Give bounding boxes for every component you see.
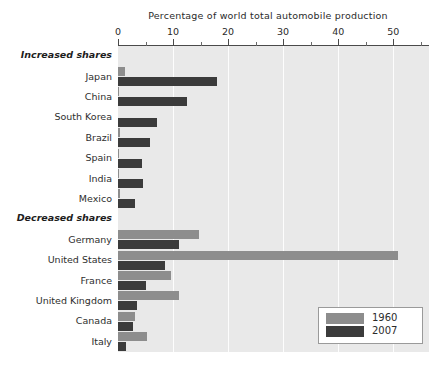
bar-1960-india bbox=[118, 169, 119, 178]
group-header-decreased-shares: Decreased shares bbox=[0, 209, 438, 229]
group-header-label: Increased shares bbox=[0, 49, 112, 60]
bar-1960-germany bbox=[118, 230, 199, 239]
bar-2007-japan bbox=[118, 77, 217, 86]
legend-swatch-1960 bbox=[326, 313, 364, 324]
bar-1960-spain bbox=[118, 149, 119, 158]
bar-2007-india bbox=[118, 179, 143, 188]
bar-2007-united-states bbox=[118, 261, 165, 270]
category-label: France bbox=[0, 275, 112, 286]
category-label: Italy bbox=[0, 336, 112, 347]
bar-2007-china bbox=[118, 97, 187, 106]
bar-1960-brazil bbox=[118, 128, 120, 137]
category-label: Spain bbox=[0, 152, 112, 163]
bar-1960-united-states bbox=[118, 251, 398, 260]
bar-1960-japan bbox=[118, 67, 125, 76]
category-label: Mexico bbox=[0, 193, 112, 204]
category-label: Brazil bbox=[0, 132, 112, 143]
category-label: China bbox=[0, 91, 112, 102]
chart-row-brazil: Brazil bbox=[0, 128, 438, 148]
chart-row-germany: Germany bbox=[0, 230, 438, 250]
chart-row-france: France bbox=[0, 270, 438, 290]
bar-1960-china bbox=[118, 87, 119, 96]
chart-row-south-korea: South Korea bbox=[0, 107, 438, 127]
tick-major-40 bbox=[338, 39, 339, 46]
bar-2007-germany bbox=[118, 240, 179, 249]
bar-1960-united-kingdom bbox=[118, 291, 179, 300]
legend-label-1960: 1960 bbox=[372, 312, 397, 323]
tick-major-20 bbox=[228, 39, 229, 46]
category-label: Japan bbox=[0, 71, 112, 82]
chart-row-india: India bbox=[0, 168, 438, 188]
category-label: South Korea bbox=[0, 111, 112, 122]
group-header-increased-shares: Increased shares bbox=[0, 46, 438, 66]
legend-label-2007: 2007 bbox=[372, 325, 397, 336]
category-label: India bbox=[0, 173, 112, 184]
chart-legend: 19602007 bbox=[318, 307, 423, 344]
chart-row-china: China bbox=[0, 87, 438, 107]
tick-major-50 bbox=[393, 39, 394, 46]
bar-2007-united-kingdom bbox=[118, 301, 137, 310]
bar-2007-france bbox=[118, 281, 146, 290]
chart-row-spain: Spain bbox=[0, 148, 438, 168]
chart-row-japan: Japan bbox=[0, 66, 438, 86]
tick-label-50: 50 bbox=[387, 26, 399, 37]
tick-major-0 bbox=[118, 39, 119, 46]
bar-1960-italy bbox=[118, 332, 147, 341]
bar-2007-brazil bbox=[118, 138, 150, 147]
category-label: United Kingdom bbox=[0, 295, 112, 306]
bar-1960-mexico bbox=[118, 189, 120, 198]
category-label: United States bbox=[0, 254, 112, 265]
bar-2007-mexico bbox=[118, 199, 135, 208]
chart-row-mexico: Mexico bbox=[0, 189, 438, 209]
legend-swatch-2007 bbox=[326, 326, 364, 337]
bar-1960-france bbox=[118, 271, 171, 280]
tick-major-30 bbox=[283, 39, 284, 46]
chart-figure: Percentage of world total automobile pro… bbox=[0, 0, 438, 366]
bar-2007-spain bbox=[118, 159, 142, 168]
chart-row-united-states: United States bbox=[0, 250, 438, 270]
tick-label-20: 20 bbox=[222, 26, 234, 37]
bar-2007-italy bbox=[118, 342, 126, 351]
tick-major-10 bbox=[173, 39, 174, 46]
tick-label-10: 10 bbox=[167, 26, 179, 37]
category-label: Canada bbox=[0, 315, 112, 326]
bar-2007-south-korea bbox=[118, 118, 157, 127]
group-header-label: Decreased shares bbox=[0, 212, 112, 223]
bar-2007-canada bbox=[118, 322, 133, 331]
tick-label-40: 40 bbox=[332, 26, 344, 37]
bar-1960-canada bbox=[118, 312, 135, 321]
tick-label-0: 0 bbox=[115, 26, 121, 37]
category-label: Germany bbox=[0, 234, 112, 245]
tick-label-30: 30 bbox=[277, 26, 289, 37]
